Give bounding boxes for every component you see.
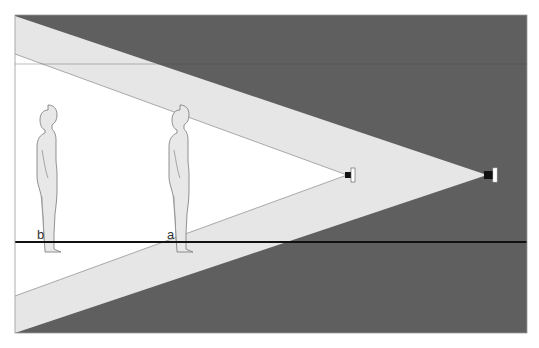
- projection-diagram: [0, 0, 539, 348]
- figure-label-b: b: [37, 228, 44, 241]
- figure-label-a: a: [167, 228, 174, 241]
